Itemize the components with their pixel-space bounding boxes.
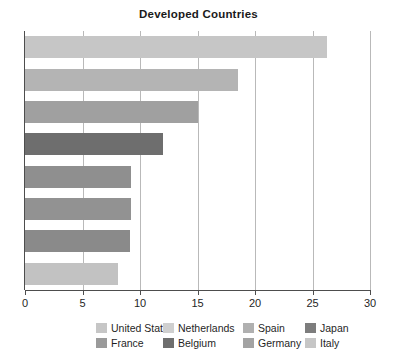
bar-row (25, 230, 130, 252)
x-axis-tick-label: 25 (306, 297, 318, 309)
bar-row (25, 133, 163, 155)
x-axis-tick (370, 290, 371, 295)
legend-item[interactable]: Spain (243, 321, 285, 335)
legend-swatch (96, 323, 107, 333)
bar-belgium (25, 133, 163, 155)
legend-label: Italy (320, 337, 339, 349)
legend-swatch (243, 338, 254, 348)
x-axis-tick-label: 5 (79, 297, 85, 309)
legend-label: Germany (258, 337, 301, 349)
legend-label: Belgium (178, 337, 216, 349)
x-axis-tick (83, 290, 84, 295)
legend-row: FranceBelgiumGermanyItaly (0, 336, 397, 350)
legend-label: Netherlands (178, 322, 235, 334)
legend-swatch (305, 323, 316, 333)
legend-item[interactable]: Belgium (163, 336, 216, 350)
legend-swatch (96, 338, 107, 348)
legend-label: Japan (320, 322, 349, 334)
legend-item[interactable]: Italy (305, 336, 339, 350)
bar-row (25, 263, 118, 285)
legend-row: United StatesNetherlandsSpainJapan (0, 321, 397, 335)
legend-swatch (305, 338, 316, 348)
bar-spain (25, 166, 131, 188)
gridline (370, 31, 371, 290)
bar-italy (25, 263, 118, 285)
x-axis-tick-label: 20 (249, 297, 261, 309)
bar-united-states (25, 36, 327, 58)
legend-swatch (243, 323, 254, 333)
bar-row (25, 69, 238, 91)
legend-item[interactable]: Netherlands (163, 321, 235, 335)
bar-row (25, 36, 327, 58)
chart-title: Developed Countries (0, 8, 397, 20)
bar-japan (25, 230, 130, 252)
legend-swatch (163, 323, 174, 333)
legend-item[interactable]: Japan (305, 321, 349, 335)
x-axis-tick (255, 290, 256, 295)
chart-legend: United StatesNetherlandsSpainJapan Franc… (0, 321, 397, 353)
bar-row (25, 198, 131, 220)
legend-item[interactable]: France (96, 336, 144, 350)
x-axis-tick-label: 30 (364, 297, 376, 309)
x-axis-tick (198, 290, 199, 295)
x-axis-tick (25, 290, 26, 295)
legend-label: France (111, 337, 144, 349)
legend-swatch (163, 338, 174, 348)
x-axis-tick (313, 290, 314, 295)
x-axis-tick (140, 290, 141, 295)
x-axis-tick-label: 0 (22, 297, 28, 309)
legend-label: Spain (258, 322, 285, 334)
x-axis-tick-label: 10 (134, 297, 146, 309)
bars-layer (25, 31, 370, 290)
bar-netherlands (25, 101, 198, 123)
bar-row (25, 101, 198, 123)
bar-chart: Developed Countries 051015202530 United … (0, 0, 397, 360)
bar-row (25, 166, 131, 188)
x-axis-tick-label: 15 (191, 297, 203, 309)
plot-area (25, 31, 370, 290)
bar-germany (25, 198, 131, 220)
legend-item[interactable]: Germany (243, 336, 301, 350)
bar-france (25, 69, 238, 91)
